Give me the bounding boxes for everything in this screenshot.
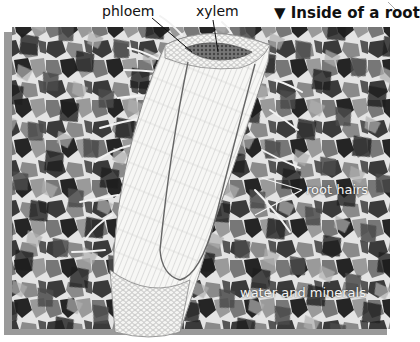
figure-title: ▼ Inside of a root	[274, 6, 420, 21]
label-xylem: xylem	[196, 4, 239, 18]
label-water-and-minerals: water and minerals	[240, 286, 366, 299]
label-root-hairs: root hairs	[306, 183, 368, 196]
triangle-marker-icon: ▼	[274, 4, 286, 22]
label-phloem: phloem	[102, 4, 154, 18]
